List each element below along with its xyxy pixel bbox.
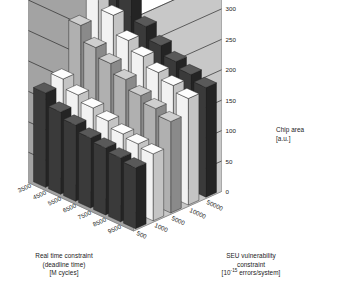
z-axis-title: Chip area [a.u.] xyxy=(276,126,334,143)
bar-side-face xyxy=(206,83,217,197)
y-axis-title: SEU vulnerability constraint [10-15 erro… xyxy=(193,252,309,278)
bar-front-face xyxy=(34,87,46,187)
y-unit-suffix: errors/system] xyxy=(237,269,280,276)
plot-area xyxy=(0,0,338,291)
z-tick-150: 150 xyxy=(226,97,236,104)
bar-front-face xyxy=(49,107,61,195)
bar-front-face xyxy=(79,133,91,209)
z-axis-title-line-2: [a.u.] xyxy=(276,135,334,144)
z-axis-title-line-1: Chip area xyxy=(276,126,334,135)
z-tick-300: 300 xyxy=(226,5,236,12)
bar-front-face xyxy=(109,152,121,221)
bar-side-face xyxy=(136,163,147,229)
z-tick-50: 50 xyxy=(226,158,233,165)
x-axis-title-line-1: Real time constraint xyxy=(8,252,120,261)
z-tick-100: 100 xyxy=(226,127,236,134)
bar-9500-500 xyxy=(124,158,147,229)
z-tick-0: 0 xyxy=(226,188,229,195)
bar-side-face xyxy=(153,149,164,221)
x-axis-title: Real time constraint (deadline time) [M … xyxy=(8,252,120,278)
bar-side-face xyxy=(188,94,199,205)
y-axis-title-line-1: SEU vulnerability xyxy=(193,252,309,261)
z-tick-200: 200 xyxy=(226,66,236,73)
z-tick-250: 250 xyxy=(226,36,236,43)
bar-front-face xyxy=(124,162,136,228)
y-unit-prefix: [10 xyxy=(222,269,231,276)
bar-side-face xyxy=(171,117,182,213)
y-axis-title-line-2: constraint xyxy=(193,261,309,270)
x-axis-title-line-2: (deadline time) xyxy=(8,261,120,270)
chip-area-3d-bar-chart: Real time constraint (deadline time) [M … xyxy=(0,0,338,291)
bar-front-face xyxy=(94,142,106,214)
x-axis-title-line-3: [M cycles] xyxy=(8,269,120,278)
y-axis-title-unit: [10-15 errors/system] xyxy=(193,269,309,278)
bar-front-face xyxy=(64,120,76,202)
